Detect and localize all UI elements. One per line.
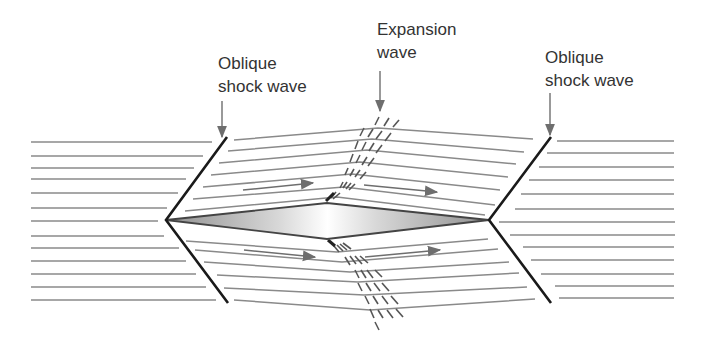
flow-arrow-upper-left [243, 183, 313, 190]
expansion-label-line2: wave [377, 41, 456, 64]
expansion-wave-label: Expansion wave [377, 18, 456, 64]
lower-streamlines [186, 239, 535, 310]
left-shock-label-line2: shock wave [218, 75, 307, 98]
flow-arrow-lower-left [244, 250, 315, 257]
shock-expansion-diagram: Oblique shock wave Expansion wave Obliqu… [0, 0, 706, 344]
expansion-lower-origin [328, 240, 335, 246]
left-shock-label: Oblique shock wave [218, 52, 307, 98]
expansion-label-line1: Expansion [377, 18, 456, 41]
left-shock-label-line1: Oblique [218, 52, 307, 75]
right-shock-label-line2: shock wave [545, 69, 634, 92]
flow-arrow-lower-right [365, 250, 440, 257]
downstream-streamlines [499, 141, 675, 298]
right-shock-label-line1: Oblique [545, 46, 634, 69]
right-shock-label: Oblique shock wave [545, 46, 634, 92]
